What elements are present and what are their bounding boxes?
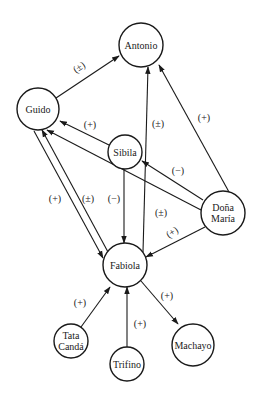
- node-antonio: Antonio: [119, 23, 163, 67]
- node-guido: Guido: [17, 88, 59, 130]
- node-label: Candá: [58, 341, 84, 352]
- node-trifino: Trifino: [110, 347, 144, 381]
- edge-fabiola-to-machayo: (+): [141, 281, 178, 324]
- edge-sign-label: (+): [161, 290, 173, 302]
- edge-dona-maria-to-sibila: (−): [142, 161, 203, 200]
- edge-sign-label: (±): [71, 59, 88, 76]
- relationship-diagram: (±)(±)(+)(+)(−)(±)(+)(+)(±)(−)(+)(+)(+) …: [0, 0, 258, 405]
- edges-layer: (±)(±)(+)(+)(−)(±)(+)(+)(±)(−)(+)(+)(+): [34, 56, 229, 347]
- edge-guido-to-antonio: (±): [56, 56, 119, 98]
- node-sibila: Sibila: [108, 135, 142, 169]
- node-label: Fabiola: [110, 260, 141, 271]
- edge-arrow: [159, 65, 229, 192]
- edge-tata-canda-to-fabiola: (+): [74, 287, 110, 327]
- edge-sign-label: (+): [49, 193, 61, 205]
- edge-arrow: [42, 130, 108, 252]
- node-label: Tata: [62, 330, 80, 341]
- edge-arrow: [143, 67, 148, 252]
- edge-arrow: [56, 56, 119, 98]
- edge-sign-label: (+): [84, 119, 96, 131]
- edge-fabiola-to-antonio: (±): [143, 67, 164, 252]
- node-tata-canda: TataCandá: [54, 324, 88, 358]
- edge-dona-maria-to-fabiola: (+): [146, 224, 205, 257]
- node-label: Antonio: [125, 40, 158, 51]
- node-label: Sibila: [113, 147, 137, 158]
- node-dona-maria: DoñaMaría: [201, 191, 245, 235]
- edge-trifino-to-fabiola: (+): [127, 287, 146, 347]
- edge-arrow: [141, 281, 178, 324]
- edge-sign-label: (±): [82, 193, 94, 205]
- edge-dona-maria-to-antonio: (+): [159, 65, 229, 192]
- edge-sign-label: (±): [152, 118, 164, 130]
- edge-sign-label: (+): [164, 224, 181, 241]
- edge-sign-label: (+): [74, 297, 86, 309]
- edge-sign-label: (+): [134, 318, 146, 330]
- node-label: María: [211, 213, 235, 224]
- edge-fabiola-to-guido: (±): [42, 130, 108, 252]
- node-label: Machayo: [174, 340, 211, 351]
- edge-sign-label: (−): [172, 165, 184, 177]
- edge-sign-label: (±): [155, 207, 167, 219]
- edge-sibila-to-fabiola: (−): [108, 169, 124, 243]
- node-label: Doña: [212, 202, 234, 213]
- node-label: Guido: [26, 104, 51, 115]
- edge-sign-label: (+): [198, 112, 210, 124]
- node-fabiola: Fabiola: [103, 243, 147, 287]
- node-machayo: Machayo: [172, 324, 214, 366]
- node-label: Trifino: [113, 359, 141, 370]
- edge-sign-label: (−): [108, 193, 120, 205]
